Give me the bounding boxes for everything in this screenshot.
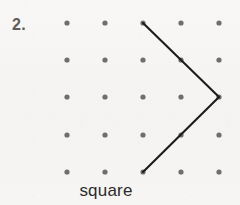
grid-dot: [178, 94, 183, 99]
grid-dot: [102, 169, 107, 174]
grid-dot: [216, 169, 221, 174]
grid-dot: [64, 94, 69, 99]
grid-dot: [216, 20, 221, 25]
dot-grid-canvas: [0, 0, 240, 205]
grid-dot: [216, 57, 221, 62]
grid-dot: [140, 57, 145, 62]
grid-dot: [102, 57, 107, 62]
grid-dot: [140, 94, 145, 99]
grid-dot: [178, 169, 183, 174]
grid-dot: [140, 132, 145, 137]
grid-dot: [64, 132, 69, 137]
grid-dot: [102, 20, 107, 25]
grid-dot: [64, 169, 69, 174]
grid-dot: [216, 132, 221, 137]
dot-grid-worksheet: 2. square: [0, 0, 240, 205]
grid-dot: [102, 94, 107, 99]
shape-caption-label: square: [0, 181, 240, 201]
grid-dot: [178, 20, 183, 25]
grid-dot: [64, 57, 69, 62]
grid-dot: [64, 20, 69, 25]
grid-dot: [102, 132, 107, 137]
dot-grid-dots: [64, 20, 221, 174]
